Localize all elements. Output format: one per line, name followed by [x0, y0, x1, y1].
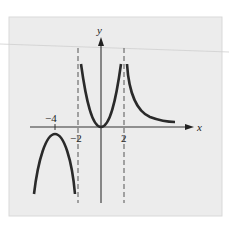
tick-label-2: 2 [121, 132, 127, 144]
graph-svg: x y −4 −2 2 [0, 0, 229, 225]
x-axis-label: x [196, 121, 202, 133]
y-axis-label: y [96, 24, 102, 36]
tick-label-neg2: −2 [70, 132, 82, 144]
function-graph-figure: x y −4 −2 2 [0, 0, 229, 225]
plot-panel [9, 17, 222, 216]
tick-label-neg4: −4 [45, 112, 57, 124]
